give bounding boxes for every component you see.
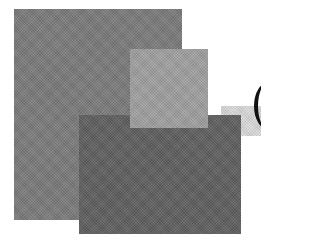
light-square — [130, 49, 208, 128]
dark-rectangle — [79, 115, 241, 234]
